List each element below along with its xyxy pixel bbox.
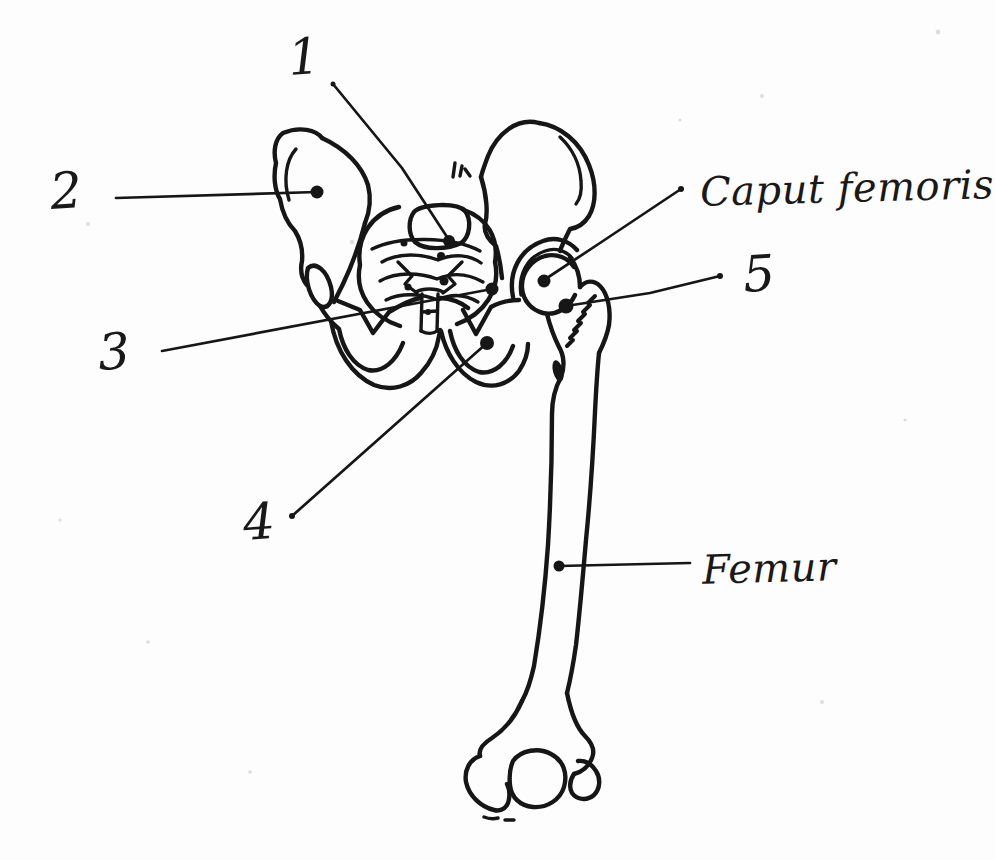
femur-drawing: [466, 239, 610, 820]
left-iliac-crest: [322, 138, 370, 223]
pointer-dot-caput-femoris: [538, 275, 551, 288]
distal-left-flare: [480, 701, 522, 756]
leader-line-femur: [559, 563, 690, 566]
label-2: 2: [48, 165, 83, 217]
right-hip-bone: [440, 122, 595, 386]
condyle-dashes: [484, 817, 514, 820]
label-4: 4: [241, 496, 276, 548]
pointer-dot-4: [480, 336, 494, 350]
right-superior-ramus: [440, 298, 519, 334]
patellar-surface: [510, 750, 566, 807]
label-femur: Femur: [701, 546, 837, 590]
left-acetabulum-oval: [307, 266, 332, 307]
symphysis-mid-rung: [422, 311, 437, 312]
leader-end-dot-1: [331, 82, 336, 87]
left-ilium-outer: [275, 129, 322, 285]
leader-end-dot-5: [717, 273, 723, 279]
label-5: 5: [741, 248, 776, 300]
leader-line-1: [333, 84, 449, 240]
pointer-dot-5: [559, 299, 574, 314]
label-caput-femoris: Caput femoris: [700, 164, 995, 212]
pointer-dot-1: [443, 235, 455, 247]
label-3: 3: [96, 326, 131, 378]
leader-line-caput-femoris: [544, 189, 681, 280]
femur-lateral-edge: [567, 353, 599, 693]
leader-end-dot-4: [289, 513, 295, 519]
scan-specks: [58, 30, 940, 774]
symphysis-bottom-cap: [421, 331, 437, 333]
symphysis-top-cap: [416, 289, 443, 292]
sacrum-top-marks: [453, 163, 470, 177]
sacrum-ridge-2: [380, 274, 483, 282]
lateral-condyle: [466, 756, 510, 810]
leader-end-dot-caput: [678, 186, 684, 192]
leader-line-4: [292, 343, 487, 516]
pointer-dot-2: [311, 186, 324, 199]
pointer-dot-femur: [554, 561, 565, 572]
pointer-dot-3: [486, 283, 499, 296]
label-1: 1: [286, 31, 321, 83]
right-ilium-top-border: [481, 122, 539, 177]
right-ilium-medial-border: [481, 177, 502, 278]
